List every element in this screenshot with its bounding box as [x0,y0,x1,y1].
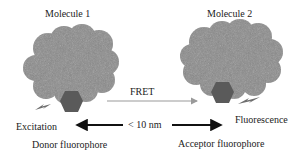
distance-label: < 10 nm [128,120,161,130]
fret-diagram [0,0,304,159]
acceptor-hexagon [211,82,234,103]
excitation-bolt-icon [35,104,51,110]
donor-fluorophore-label: Donor fluorophore [32,140,107,150]
donor-hexagon [60,91,83,112]
fluorescence-bolt-icon [238,97,260,104]
molecule1-label: Molecule 1 [45,9,90,19]
fret-label: FRET [130,87,154,97]
molecule2-label: Molecule 2 [207,9,252,19]
fluorescence-label: Fluorescence [235,115,288,125]
acceptor-fluorophore-label: Acceptor fluorophore [178,139,264,149]
excitation-label: Excitation [16,122,57,132]
